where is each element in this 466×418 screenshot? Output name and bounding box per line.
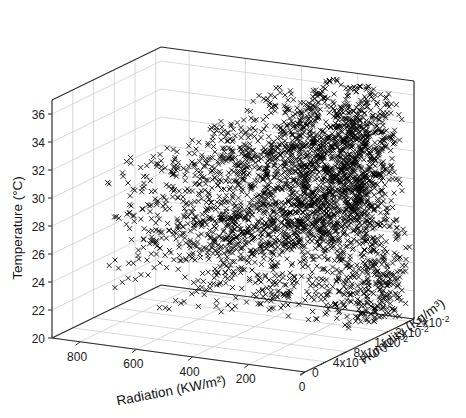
ticklabel-temperature: 28	[32, 220, 46, 234]
ticklabel-radiation: 800	[67, 350, 87, 364]
ticklabel-temperature: 20	[32, 332, 46, 346]
figure-container: 202224262830323436800600400200004x10-38x…	[0, 0, 466, 418]
ticklabel-temperature: 30	[32, 192, 46, 206]
ticklabel-radiation: 200	[236, 372, 256, 386]
axis-title-temperature: Temperature (°C)	[10, 176, 25, 280]
ticklabel-temperature: 24	[32, 276, 46, 290]
ticklabel-radiation: 600	[123, 357, 143, 371]
scatter-3d-plot: 202224262830323436800600400200004x10-38x…	[0, 0, 466, 418]
ticklabel-temperature: 22	[32, 304, 46, 318]
ticklabel-radiation: 400	[180, 365, 200, 379]
ticklabel-temperature: 32	[32, 164, 46, 178]
ticklabel-temperature: 34	[32, 136, 46, 150]
ticklabel-temperature: 26	[32, 248, 46, 262]
ticklabel-temperature: 36	[32, 108, 46, 122]
ticklabel-radiation: 0	[299, 380, 306, 394]
ticklabel-humidity: 0	[312, 366, 319, 380]
